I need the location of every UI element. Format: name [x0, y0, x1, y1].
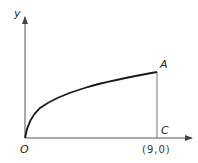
point-a-label: A: [159, 58, 168, 71]
y-axis-label: y: [13, 7, 21, 20]
sqrt-curve: [25, 72, 157, 138]
point-c-coordinate: (9,0): [142, 144, 171, 155]
diagram-canvas: y A C O (9,0): [0, 0, 198, 163]
origin-label: O: [20, 143, 29, 156]
point-c-label: C: [161, 124, 169, 137]
